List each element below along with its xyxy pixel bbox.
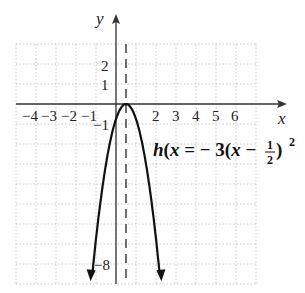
svg-text:2: 2 xyxy=(267,153,273,167)
x-tick: 5 xyxy=(212,108,220,124)
graph-figure: y x −4 −3 −2 −1 2 3 4 5 6 2 1 −1 −8 h(x … xyxy=(0,0,305,293)
x-tick: −4 xyxy=(22,108,38,124)
eq-fn: h xyxy=(153,139,164,160)
svg-text:h(x = − 3(x −: h(x = − 3(x − xyxy=(153,139,256,161)
y-axis-label: y xyxy=(94,9,104,28)
x-tick: 6 xyxy=(231,108,239,124)
y-tick: −8 xyxy=(94,257,110,273)
x-tick: 2 xyxy=(152,108,160,124)
curve-arrow-right-icon xyxy=(156,269,165,281)
svg-text:1: 1 xyxy=(267,138,273,152)
x-tick: 3 xyxy=(172,108,180,124)
x-tick: −2 xyxy=(61,108,77,124)
x-tick: −3 xyxy=(41,108,57,124)
y-tick: 2 xyxy=(101,58,109,74)
y-tick: −1 xyxy=(93,117,109,133)
x-axis-label: x xyxy=(277,109,286,128)
grid-lines xyxy=(16,44,256,284)
coordinate-plane: y x −4 −3 −2 −1 2 3 4 5 6 2 1 −1 −8 h(x … xyxy=(0,0,305,293)
svg-text:): ) xyxy=(276,139,282,161)
x-tick: 4 xyxy=(192,108,200,124)
function-equation: h(x = − 3(x − 1 2 ) 2 xyxy=(153,135,295,167)
svg-text:2: 2 xyxy=(289,135,295,149)
y-tick: 1 xyxy=(101,77,109,93)
